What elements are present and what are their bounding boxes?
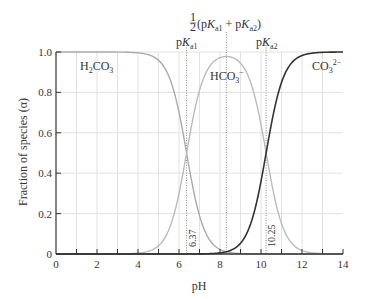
label-pka1: pKa1 (176, 35, 198, 51)
label-co3: CO32− (312, 58, 342, 75)
y-tick-label: 0.4 (38, 167, 52, 179)
y-tick-label: 0.2 (38, 208, 52, 220)
pka-reference-lines (187, 32, 267, 254)
x-tick-label: 10 (256, 258, 268, 270)
label-hco3: HCO3− (210, 68, 244, 85)
x-tick-label: 4 (135, 258, 141, 270)
y-tick-label: 0.6 (38, 127, 52, 139)
label-h2co3: H2CO3 (80, 59, 113, 75)
y-tick-label: 1.0 (38, 46, 52, 58)
x-tick-label: 2 (94, 258, 100, 270)
x-axis-title: pH (192, 279, 207, 293)
x-tick-label: 6 (176, 258, 182, 270)
x-tick-label: 0 (53, 258, 59, 270)
y-axis-title: Fraction of species (α) (16, 98, 30, 206)
svg-text:(pKa1 + pKa2): (pKa1 + pKa2) (197, 17, 261, 33)
svg-text:2: 2 (190, 20, 196, 34)
y-tick-label: 0 (47, 248, 53, 260)
label-half-sum: 1 2 (pKa1 + pKa2) (190, 10, 261, 34)
x-tick-label: 14 (338, 258, 350, 270)
pka2-value-label: 10.25 (266, 225, 277, 248)
speciation-chart: 0246810121400.20.40.60.81.0 pH Fraction … (0, 0, 365, 299)
y-tick-label: 0.8 (38, 86, 52, 98)
grid (56, 52, 343, 254)
x-tick-label: 8 (217, 258, 223, 270)
pka1-value-label: 6.37 (187, 230, 198, 248)
x-tick-label: 12 (297, 258, 308, 270)
label-pka2: pKa2 (256, 35, 278, 51)
